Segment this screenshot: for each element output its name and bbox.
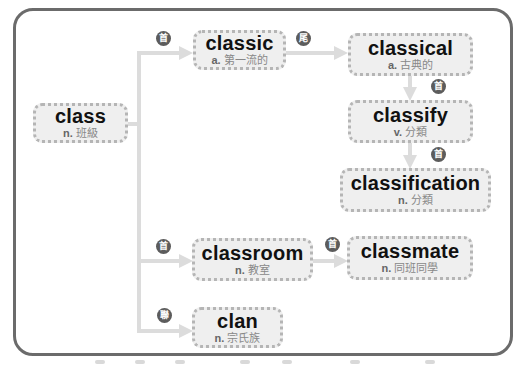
- arrow-to-classic-icon: [179, 46, 193, 60]
- meaning: 古典的: [400, 59, 433, 71]
- badge-prefix-icon: 首: [156, 31, 171, 46]
- node-definition: n.班級: [63, 127, 98, 140]
- node-word: classical: [368, 38, 453, 58]
- meaning: 分類: [411, 194, 433, 206]
- meaning: 宗氏族: [227, 332, 260, 344]
- arrow-to-classical-icon: [334, 46, 348, 60]
- badge-prefix-icon: 首: [325, 237, 340, 252]
- node-classification: classification n.分類: [340, 168, 491, 212]
- meaning: 教室: [248, 264, 270, 276]
- part-of-speech: n.: [235, 264, 245, 276]
- connector-classroom-classmate: [312, 259, 334, 263]
- connector-to-classic: [137, 51, 179, 55]
- node-definition: n.教室: [235, 264, 270, 277]
- node-classical: classical a.古典的: [348, 33, 473, 76]
- node-word: classmate: [361, 241, 460, 261]
- node-word: classroom: [202, 243, 304, 263]
- arrow-to-classmate-icon: [334, 254, 348, 268]
- arrow-to-classroom-icon: [179, 254, 193, 268]
- node-definition: a.第一流的: [211, 54, 267, 67]
- connector-to-clan: [137, 329, 179, 333]
- part-of-speech: v.: [394, 126, 402, 138]
- meaning: 同班同學: [394, 262, 438, 274]
- node-classroom: classroom n.教室: [192, 238, 313, 281]
- node-definition: n.宗氏族: [215, 332, 261, 345]
- node-classify: classify v.分類: [348, 100, 473, 143]
- arrow-to-classify-icon: [403, 87, 417, 101]
- badge-prefix-icon: 首: [156, 239, 171, 254]
- node-definition: a.古典的: [388, 59, 433, 72]
- node-definition: n.分類: [398, 194, 433, 207]
- part-of-speech: a.: [388, 59, 397, 71]
- cropped-text-strip: [0, 356, 525, 372]
- connector-classify-classification: [408, 143, 412, 155]
- node-definition: n.同班同學: [382, 262, 439, 275]
- node-clan: clan n.宗氏族: [192, 307, 283, 348]
- node-classmate: classmate n.同班同學: [347, 236, 473, 280]
- node-word: classification: [351, 173, 481, 193]
- arrow-to-clan-icon: [179, 324, 193, 338]
- part-of-speech: n.: [398, 194, 408, 206]
- connector-classic-classical: [286, 51, 334, 55]
- node-word: clan: [217, 311, 258, 331]
- part-of-speech: n.: [382, 262, 392, 274]
- connector-trunk: [137, 51, 141, 333]
- meaning: 分類: [405, 126, 427, 138]
- badge-prefix-icon: 首: [431, 79, 446, 94]
- part-of-speech: n.: [63, 127, 73, 139]
- part-of-speech: a.: [211, 54, 220, 66]
- connector-to-classroom: [137, 259, 179, 263]
- node-classic: classic a.第一流的: [193, 30, 286, 70]
- badge-suffix-icon: 尾: [296, 31, 311, 46]
- badge-link-icon: 聯: [157, 308, 172, 323]
- node-class: class n.班級: [33, 103, 128, 143]
- node-word: classic: [205, 33, 273, 53]
- arrow-to-classification-icon: [403, 155, 417, 169]
- meaning: 班級: [76, 127, 98, 139]
- node-word: classify: [373, 105, 448, 125]
- node-definition: v.分類: [394, 126, 427, 139]
- part-of-speech: n.: [215, 332, 225, 344]
- badge-prefix-icon: 首: [431, 147, 446, 162]
- node-word: class: [55, 106, 106, 126]
- meaning: 第一流的: [224, 54, 268, 66]
